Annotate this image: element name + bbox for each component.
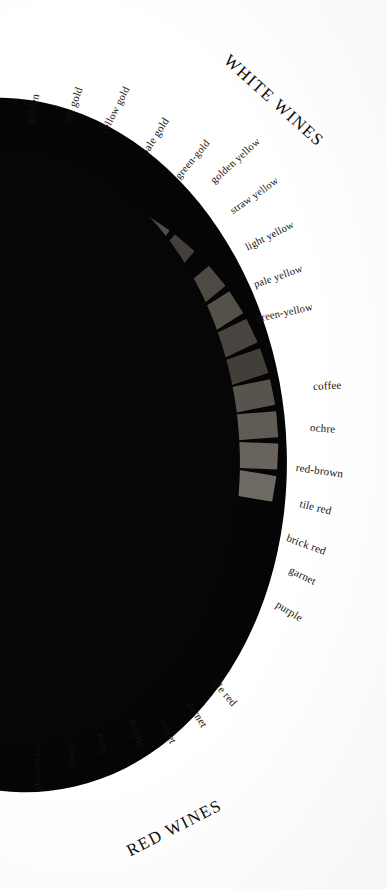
swatch-chip-cherry-22 [236,411,278,440]
swatch-label-garnet-15: garnet [287,564,318,587]
swatch-label-green-yellow-9: green-yellow [255,301,314,324]
disc-inner-field [0,122,269,768]
swatch-label-tile-red-13: tile red [299,497,333,516]
swatch-label-ochre-11: ochre [310,421,336,435]
swatch-label-light-yellow-7: light yellow [244,219,296,253]
swatch-label-green-gold-4: green-gold [173,138,212,181]
swatch-label-coffee-10: coffee [313,379,342,392]
swatch-chip-strawberry-23 [237,442,278,470]
swatch-label-yellow-gold-2: yellow gold [98,85,131,136]
swatch-label-brick-red-14: brick red [285,531,328,556]
swatch-label-pale-gold-3: pale gold [138,115,171,157]
section-title-white-wines: WHITE WINES [219,51,327,151]
swatch-label-straw-yellow-6: straw yellow [228,175,280,216]
swatch-label-pale-yellow-8: pale yellow [252,263,304,290]
swatch-label-purple-16: purple [274,598,305,624]
section-title-red-wines: RED WINES [123,796,225,861]
swatch-label-golden-yellow-5: golden yellow [208,136,262,186]
wine-colour-wheel-figure: goldenold goldyellow goldpale goldgreen-… [0,0,387,889]
swatch-label-red-brown-12: red-brown [295,461,344,480]
swatch-chip-ruby-21 [231,379,275,412]
swatch-label-strawberry-23: strawberry [33,746,44,793]
